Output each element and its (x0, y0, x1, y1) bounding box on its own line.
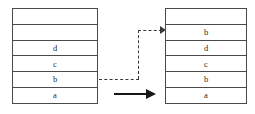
dashed-arrow-segment-horizontal-lower (99, 79, 139, 80)
right-stack: b d c b a (165, 8, 247, 104)
left-stack-cell-2: d (13, 41, 97, 57)
right-stack-cell-3: c (166, 56, 246, 72)
cell-label: b (204, 28, 208, 37)
left-stack: d c b a (12, 8, 98, 104)
right-stack-cell-2: d (166, 41, 246, 57)
right-stack-cell-1: b (166, 25, 246, 41)
left-stack-cell-4: b (13, 72, 97, 88)
right-stack-cell-5: a (166, 88, 246, 103)
diagram-canvas: d c b a b d c b a (0, 0, 255, 114)
cell-label: c (204, 60, 208, 69)
cell-label: d (204, 44, 208, 53)
dashed-arrow-segment-vertical (138, 30, 139, 79)
left-stack-cell-1 (13, 25, 97, 41)
cell-label: d (53, 44, 57, 53)
left-stack-cell-3: c (13, 56, 97, 72)
left-stack-cell-5: a (13, 88, 97, 103)
cell-label: a (204, 91, 208, 100)
cell-label: c (53, 60, 57, 69)
cell-label: a (53, 91, 57, 100)
solid-arrow-head-icon (146, 89, 156, 99)
left-stack-cell-0 (13, 9, 97, 25)
dashed-arrow-segment-horizontal-upper (138, 30, 162, 31)
solid-arrow-shaft (114, 93, 148, 95)
right-stack-cell-4: b (166, 72, 246, 88)
right-stack-cell-0 (166, 9, 246, 25)
cell-label: b (53, 75, 57, 84)
cell-label: b (204, 75, 208, 84)
